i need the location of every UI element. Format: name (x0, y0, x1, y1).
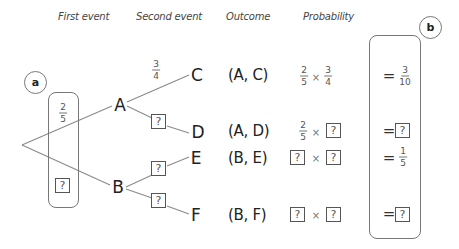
label-a-text: a (32, 76, 39, 89)
row2-factor1: 2 5 (299, 121, 307, 142)
label-b-text: b (427, 21, 435, 34)
row1-result: 3 10 (399, 66, 410, 87)
row4-equals: = (383, 207, 396, 222)
prob-e-placeholder[interactable]: ? (151, 161, 166, 176)
row4-factor2-placeholder[interactable]: ? (326, 207, 341, 222)
label-a-circle: a (24, 71, 47, 94)
row3-factor1-placeholder[interactable]: ? (290, 150, 305, 165)
node-b: B (112, 179, 124, 196)
row2-times: × (312, 127, 320, 138)
branch-b-e-1 (126, 175, 152, 187)
node-e: E (191, 150, 202, 167)
prob-a-fraction: 2 5 (59, 103, 67, 124)
outcome-bf: (B, F) (228, 208, 266, 223)
node-c: C (191, 67, 203, 84)
prob-c-fraction: 3 4 (152, 60, 160, 81)
node-a: A (114, 97, 126, 114)
outcome-be: (B, E) (228, 151, 267, 166)
row3-factor2-placeholder[interactable]: ? (326, 150, 341, 165)
row4-result-placeholder[interactable]: ? (395, 207, 410, 222)
row4-times: × (312, 210, 320, 221)
node-d: D (191, 124, 204, 141)
row2-equals: = (383, 124, 396, 139)
prob-b-placeholder[interactable]: ? (55, 178, 70, 193)
label-b-circle: b (419, 16, 442, 39)
row2-factor2-placeholder[interactable]: ? (326, 123, 341, 138)
outcome-ac: (A, C) (228, 68, 268, 83)
row1-factor2: 3 4 (324, 66, 332, 87)
outcome-ad: (A, D) (228, 124, 269, 139)
branch-a-d-1 (127, 106, 152, 118)
row3-equals: = (383, 151, 396, 166)
row1-equals: = (383, 69, 396, 84)
row1-factor1: 2 5 (300, 66, 308, 87)
prob-d-placeholder[interactable]: ? (151, 114, 166, 129)
prob-f-placeholder[interactable]: ? (151, 193, 166, 208)
branch-b-e-2 (167, 157, 189, 166)
node-f: F (191, 207, 201, 224)
branch-a-d-2 (167, 126, 189, 133)
row2-result-placeholder[interactable]: ? (395, 123, 410, 138)
branch-b-f-2 (167, 206, 189, 214)
branch-b-f-1 (126, 189, 152, 198)
row4-factor1-placeholder[interactable]: ? (290, 207, 305, 222)
row3-times: × (312, 153, 320, 164)
row1-times: × (312, 72, 320, 83)
row3-result: 1 5 (399, 147, 407, 168)
